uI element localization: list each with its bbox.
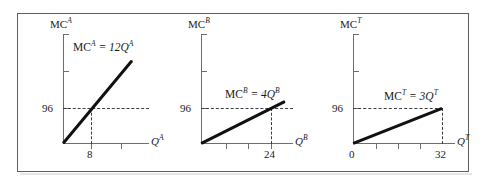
panel-a-x-tick-2 <box>121 143 122 149</box>
marginal-cost-figure: MCA QA MCA = 12QA 96 8 MCB QB MCB = 4QB … <box>0 0 491 190</box>
panel-b-y-axis-label: MCB <box>188 18 210 30</box>
panel-a-quantity-dash <box>91 108 92 144</box>
panel-t-price-dash <box>353 108 443 109</box>
panel-t-origin-label: 0 <box>349 148 355 160</box>
panel-a-equation: MCA = 12QA <box>73 41 133 53</box>
panel-t-price-label: 96 <box>332 102 343 114</box>
panel-b-mc-curve <box>200 100 285 145</box>
panel-a-x-axis <box>63 143 149 144</box>
panel-a: MCA QA MCA = 12QA 96 8 <box>18 14 168 173</box>
panel-t-quantity-dash <box>442 108 443 144</box>
panel-t-y-axis-label: MCT <box>340 18 361 30</box>
panel-b-y-axis <box>201 34 202 144</box>
panel-a-quantity-label: 8 <box>87 148 93 160</box>
panel-b-x-tick-2 <box>248 143 249 149</box>
panel-b-x-axis-label: QB <box>295 135 308 147</box>
panel-a-x-axis-label: QA <box>151 135 164 147</box>
panel-b: MCB QB MCB = 4QB 96 24 <box>168 14 318 173</box>
panel-t-quantity-label: 32 <box>435 148 446 160</box>
panel-b-equation: MCB = 4QB <box>225 88 280 100</box>
panel-b-quantity-label: 24 <box>264 148 275 160</box>
panel-b-price-label: 96 <box>180 102 191 114</box>
panel-t-x-axis-label: QT <box>457 135 469 147</box>
panel-b-quantity-dash <box>271 108 272 144</box>
panel-a-mc-curve <box>62 60 133 145</box>
panel-a-y-axis-label: MCA <box>50 18 72 30</box>
panel-t-y-axis <box>353 34 354 144</box>
panel-t-x-tick-1 <box>376 143 377 149</box>
panel-t-equation: MCT = 3QT <box>384 90 438 102</box>
panel-t-mc-curve <box>352 107 442 145</box>
panel-b-y-tick-top <box>201 34 207 35</box>
panel-t-x-tick-3 <box>420 143 421 149</box>
panel-b-price-dash <box>201 108 293 109</box>
panel-b-x-axis <box>201 143 293 144</box>
panel-a-y-tick-top <box>63 34 69 35</box>
panel-t-x-axis <box>353 143 455 144</box>
panel-t: MCT QT MCT = 3QT 96 0 32 <box>318 14 470 173</box>
panel-t-y-tick-mid <box>353 71 359 72</box>
panel-t-x-tick-2 <box>398 143 399 149</box>
figure-frame: MCA QA MCA = 12QA 96 8 MCB QB MCB = 4QB … <box>17 13 469 172</box>
panel-t-y-tick-top <box>353 34 359 35</box>
panel-b-x-tick-1 <box>226 143 227 149</box>
panel-a-y-tick-mid <box>63 71 69 72</box>
panel-a-y-axis <box>63 34 64 144</box>
panel-a-price-label: 96 <box>42 102 53 114</box>
panel-a-price-dash <box>63 108 149 109</box>
panel-b-y-tick-mid <box>201 71 207 72</box>
